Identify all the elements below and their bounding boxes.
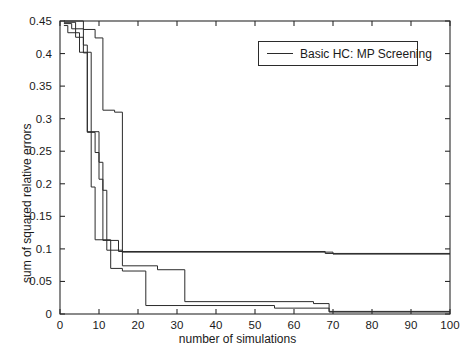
y-tick-label: 0.35 — [0, 80, 52, 92]
x-tick-label: 0 — [57, 319, 64, 331]
y-axis-label: sum of squared relative errors — [20, 124, 34, 283]
x-tick-label: 20 — [132, 319, 145, 331]
legend-entry-label: Basic HC: MP Screening — [300, 47, 432, 61]
legend-line-swatch — [267, 53, 293, 54]
y-tick-label: 0 — [0, 308, 52, 320]
x-tick-label: 50 — [249, 319, 262, 331]
x-tick-label: 70 — [327, 319, 340, 331]
x-tick-label: 60 — [288, 319, 301, 331]
x-tick-label: 100 — [440, 319, 460, 331]
y-tick-label: 0.45 — [0, 15, 52, 27]
x-tick-label: 10 — [93, 319, 106, 331]
series-line — [64, 26, 450, 312]
x-tick-label: 90 — [405, 319, 418, 331]
figure-container: 00.050.10.150.20.250.30.350.40.45 010203… — [0, 0, 475, 354]
y-tick-label: 0.4 — [0, 48, 52, 60]
x-axis-label: number of simulations — [179, 332, 296, 346]
legend-box: Basic HC: MP Screening — [258, 41, 418, 66]
x-tick-label: 80 — [366, 319, 379, 331]
x-tick-label: 30 — [171, 319, 184, 331]
x-tick-label: 40 — [210, 319, 223, 331]
